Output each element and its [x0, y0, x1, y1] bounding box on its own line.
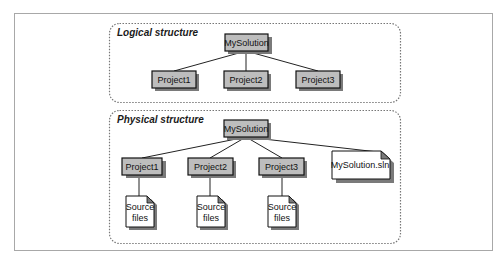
physical-root-label: MySolution [224, 124, 269, 134]
logical-root-label: MySolution [224, 38, 269, 48]
solution-file-label: MySolution.sln [331, 160, 390, 170]
logical-structure-title: Logical structure [117, 27, 199, 38]
source-files-doc-2: Source files [197, 196, 228, 230]
source-files-doc-3: Source files [268, 196, 299, 230]
physical-node-mysolution: MySolution [224, 120, 271, 140]
diagram-canvas: Logical structure MySolution Project1 Pr… [0, 0, 504, 258]
source-files-doc-1: Source files [126, 196, 157, 230]
logical-node-project1: Project1 [152, 71, 199, 91]
connector-physical-root-project1 [142, 137, 246, 158]
source-files-label-line2: files [203, 213, 220, 223]
source-files-label-line1: Source [197, 202, 226, 212]
logical-node-project2: Project2 [224, 71, 271, 91]
physical-node-project2: Project2 [188, 158, 236, 178]
physical-node-project3: Project3 [259, 158, 307, 178]
physical-project1-label: Project1 [125, 162, 158, 172]
logical-project3-label: Project3 [301, 75, 334, 85]
physical-structure-title: Physical structure [117, 114, 204, 125]
solution-file-doc: MySolution.sln [331, 151, 394, 183]
logical-project2-label: Project2 [229, 75, 262, 85]
source-files-label-line2: files [132, 213, 149, 223]
logical-structure-group: Logical structure MySolution Project1 Pr… [110, 24, 401, 103]
source-files-label-line2: files [274, 213, 291, 223]
logical-node-mysolution: MySolution [224, 34, 272, 54]
source-files-label-line1: Source [126, 202, 155, 212]
physical-project2-label: Project2 [194, 162, 227, 172]
physical-node-project1: Project1 [122, 158, 166, 178]
physical-project3-label: Project3 [265, 162, 298, 172]
source-files-label-line1: Source [268, 202, 297, 212]
logical-project1-label: Project1 [157, 75, 190, 85]
physical-structure-group: Physical structure MySolution Project1 P… [110, 111, 401, 244]
logical-node-project3: Project3 [296, 71, 343, 91]
